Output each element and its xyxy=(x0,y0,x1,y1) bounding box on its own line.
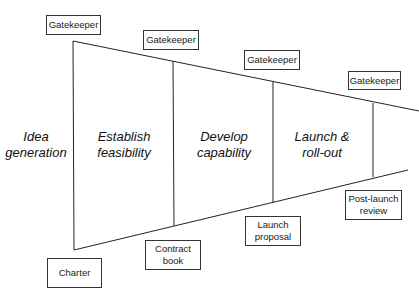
stage-establish-feasibility: Establish feasibility xyxy=(90,129,158,161)
deliverable-launch-proposal: Launch proposal xyxy=(245,216,301,246)
gate-line-2 xyxy=(173,61,174,226)
stage-label-line2: feasibility xyxy=(90,145,158,161)
deliverable-label-line1: Launch xyxy=(257,219,288,231)
deliverable-label: Charter xyxy=(59,267,91,279)
stage-launch-rollout: Launch & roll-out xyxy=(290,129,354,161)
deliverable-label-line1: Post-launch xyxy=(348,193,398,205)
stage-label-line2: generation xyxy=(0,145,72,161)
stage-label-line1: Launch & xyxy=(290,129,354,145)
deliverable-label-line2: proposal xyxy=(255,231,291,243)
stage-label-line2: roll-out xyxy=(290,145,354,161)
gatekeeper-box-3: Gatekeeper xyxy=(244,50,300,70)
gatekeeper-label: Gatekeeper xyxy=(247,54,297,66)
deliverable-label-line2: book xyxy=(163,255,184,267)
gate-line-1 xyxy=(73,41,74,250)
stage-label-line1: Establish xyxy=(90,129,158,145)
deliverable-post-launch-review: Post-launch review xyxy=(345,190,402,220)
gatekeeper-label: Gatekeeper xyxy=(146,34,196,46)
gatekeeper-box-1: Gatekeeper xyxy=(46,15,101,35)
gatekeeper-box-4: Gatekeeper xyxy=(348,71,401,90)
stage-idea-generation: Idea generation xyxy=(0,129,72,161)
stage-label-line1: Develop xyxy=(188,129,260,145)
stage-develop-capability: Develop capability xyxy=(188,129,260,161)
gatekeeper-label: Gatekeeper xyxy=(350,75,400,87)
gatekeeper-box-2: Gatekeeper xyxy=(143,30,199,50)
deliverable-charter: Charter xyxy=(47,258,102,288)
deliverable-label-line2: review xyxy=(360,205,387,217)
deliverable-label-line1: Contract xyxy=(155,243,191,255)
stage-label-line1: Idea xyxy=(0,129,72,145)
deliverable-contract-book: Contract book xyxy=(145,240,201,270)
gatekeeper-label: Gatekeeper xyxy=(49,19,99,31)
stage-label-line2: capability xyxy=(188,145,260,161)
